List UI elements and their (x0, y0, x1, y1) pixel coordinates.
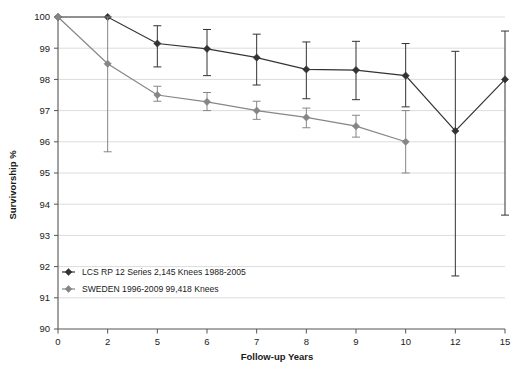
y-tick-label: 94 (39, 199, 50, 210)
x-tick-label: 9 (353, 336, 358, 347)
series-lcs-rp (54, 13, 509, 276)
data-point-marker (303, 114, 310, 121)
y-tick-label: 93 (39, 230, 50, 241)
x-tick-label: 10 (400, 336, 411, 347)
y-tick-label: 91 (39, 292, 50, 303)
x-axis-title: Follow-up Years (241, 351, 314, 362)
legend-diamond-icon (65, 269, 72, 276)
legend-label: SWEDEN 1996-2009 99,418 Knees (82, 284, 219, 294)
data-point-marker (352, 123, 359, 130)
legend-item-sweden: SWEDEN 1996-2009 99,418 Knees (62, 284, 219, 294)
series-group (54, 13, 509, 276)
chart-canvas: 90919293949596979899100 0256789101215 LC… (0, 0, 518, 370)
y-tick-label: 95 (39, 167, 50, 178)
x-tick-label: 8 (304, 336, 309, 347)
legend-diamond-icon (65, 286, 72, 293)
y-axis-title: Survivorship % (7, 150, 18, 220)
y-tick-label: 92 (39, 261, 50, 272)
y-tick-group: 90919293949596979899100 (34, 11, 58, 334)
x-tick-label: 5 (155, 336, 160, 347)
data-point-marker (253, 54, 260, 61)
x-tick-label: 2 (105, 336, 110, 347)
data-point-marker (303, 66, 310, 73)
legend-label: LCS RP 12 Series 2,145 Knees 1988-2005 (82, 267, 246, 277)
x-tick-label: 0 (55, 336, 60, 347)
y-tick-label: 97 (39, 105, 50, 116)
legend-item-lcs-rp: LCS RP 12 Series 2,145 Knees 1988-2005 (62, 267, 246, 277)
data-point-marker (402, 138, 409, 145)
x-tick-label: 12 (450, 336, 461, 347)
error-bar (451, 51, 459, 276)
data-point-marker (154, 91, 161, 98)
survivorship-chart: 90919293949596979899100 0256789101215 LC… (0, 0, 518, 370)
gridlines-group (58, 17, 505, 298)
data-point-marker (154, 40, 161, 47)
y-tick-label: 99 (39, 43, 50, 54)
x-tick-label: 15 (500, 336, 511, 347)
y-tick-label: 98 (39, 74, 50, 85)
error-bar (501, 31, 509, 215)
y-tick-label: 90 (39, 323, 50, 334)
data-point-marker (352, 66, 359, 73)
data-point-marker (253, 107, 260, 114)
y-tick-label: 100 (34, 11, 50, 22)
data-point-marker (203, 45, 210, 52)
x-tick-label: 7 (254, 336, 259, 347)
legend-group: LCS RP 12 Series 2,145 Knees 1988-2005SW… (62, 267, 246, 294)
y-tick-label: 96 (39, 136, 50, 147)
x-tick-label: 6 (204, 336, 209, 347)
x-tick-group: 0256789101215 (55, 329, 510, 347)
error-bar (104, 17, 112, 152)
data-point-marker (203, 98, 210, 105)
